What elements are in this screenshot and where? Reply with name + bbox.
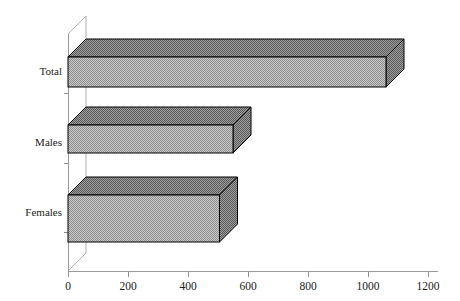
x-axis-ticks [68,271,428,277]
x-tick-label-1000: 1000 [357,280,380,292]
bar-females [68,177,238,242]
x-tick-label-200: 200 [119,280,137,292]
y-axis-ticks [64,93,68,232]
x-tick-label-800: 800 [299,280,317,292]
category-label-females: Females [25,206,62,218]
bar-females-front-face [68,195,220,242]
x-axis-tick-labels: 0 200 400 600 800 1000 1200 [65,280,440,292]
chart-container: Total Males Females 0 200 400 600 800 10… [0,0,460,301]
bottom-depth-connector [68,253,86,271]
bar-total-front-face [68,57,386,87]
bar-males-front-face [68,125,233,153]
bar-females-top-face [68,177,238,195]
x-tick-label-0: 0 [65,280,71,292]
x-tick-label-400: 400 [179,280,197,292]
category-label-total: Total [40,65,62,77]
bar-males [68,107,251,153]
bar-total-top-face [68,39,404,57]
bar-total [68,39,404,87]
top-depth-connector [68,16,86,34]
bar-males-top-face [68,107,251,125]
category-label-males: Males [35,136,62,148]
x-tick-label-600: 600 [239,280,257,292]
bar-chart-3d: Total Males Females 0 200 400 600 800 10… [0,0,460,301]
x-tick-label-1200: 1200 [417,280,440,292]
category-labels: Total Males Females [25,65,62,218]
